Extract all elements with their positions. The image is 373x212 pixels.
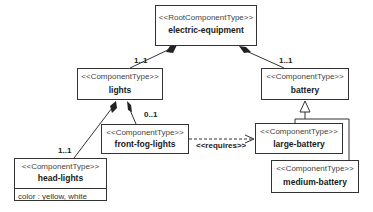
node-name: head-lights [15, 173, 106, 184]
node-name: lights [78, 85, 162, 96]
multiplicity-battery: 1..1 [279, 56, 292, 65]
stereotype-label: <<ComponentType>> [15, 162, 106, 172]
attribute-color: color : yellow, white [15, 188, 106, 204]
generalization-large-battery [295, 101, 349, 123]
composition-lights-front-fog [127, 101, 136, 124]
node-head-lights[interactable]: <<ComponentType>> head-lights color : ye… [14, 158, 107, 201]
multiplicity-front-fog-lights: 0..1 [144, 110, 157, 119]
stereotype-label: <<ComponentType>> [262, 72, 348, 82]
node-name: front-fog-lights [102, 139, 188, 150]
node-name: battery [262, 85, 348, 96]
stereotype-label: <<ComponentType>> [78, 72, 162, 82]
stereotype-label: <<RootComponentType>> [156, 13, 256, 23]
multiplicity-head-lights: 1..1 [58, 146, 71, 155]
node-electric-equipment[interactable]: <<RootComponentType>> electric-equipment [155, 5, 257, 46]
node-name: large-battery [256, 139, 342, 150]
stereotype-label: <<ComponentType>> [102, 128, 188, 138]
stereotype-label: <<ComponentType>> [256, 127, 342, 137]
node-lights[interactable]: <<ComponentType>> lights [77, 68, 163, 100]
node-front-fog-lights[interactable]: <<ComponentType>> front-fog-lights [101, 124, 189, 154]
node-battery[interactable]: <<ComponentType>> battery [261, 68, 349, 100]
node-name: electric-equipment [156, 25, 256, 36]
stereotype-label: <<ComponentType>> [272, 164, 358, 174]
node-medium-battery[interactable]: <<ComponentType>> medium-battery [271, 160, 359, 193]
multiplicity-lights: 1..1 [134, 56, 147, 65]
node-name: medium-battery [272, 177, 358, 188]
dependency-label-requires: <<requires>> [196, 141, 246, 150]
node-large-battery[interactable]: <<ComponentType>> large-battery [255, 123, 343, 154]
composition-root-battery [239, 46, 284, 68]
